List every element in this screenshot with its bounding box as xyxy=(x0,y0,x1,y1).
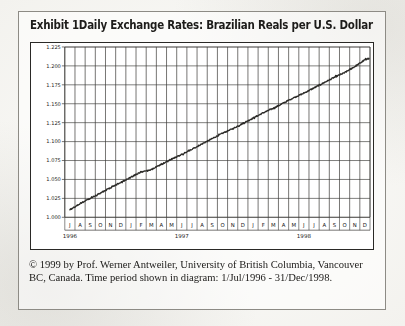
x-year-label: 1996 xyxy=(63,233,78,239)
x-axis-year-labels: 199619971998 xyxy=(63,233,312,239)
chart-gridlines xyxy=(65,47,370,230)
x-tick-label: A xyxy=(78,222,82,228)
x-tick-label: A xyxy=(282,222,286,228)
x-tick-label: N xyxy=(231,222,235,228)
y-tick-label: 1.075 xyxy=(46,157,60,163)
y-tick-label: 1.125 xyxy=(46,120,60,126)
x-tick-label: J xyxy=(180,222,183,229)
x-tick-label: A xyxy=(160,222,164,228)
x-tick-label: M xyxy=(271,222,276,228)
x-tick-label: D xyxy=(241,222,245,228)
y-tick-label: 1.000 xyxy=(46,214,60,220)
y-tick-label: 1.150 xyxy=(46,101,60,107)
y-tick-label: 1.100 xyxy=(46,138,60,144)
y-tick-label: 1.175 xyxy=(46,82,60,88)
y-tick-label: 1.025 xyxy=(46,195,60,201)
y-axis-tick-labels: 1.2251.2001.1751.1501.1251.1001.0751.050… xyxy=(46,44,64,220)
x-tick-label: J xyxy=(312,222,315,229)
x-tick-label: O xyxy=(342,222,346,228)
x-tick-label: A xyxy=(322,222,326,228)
x-tick-label: F xyxy=(262,222,265,228)
x-tick-label: F xyxy=(140,222,143,228)
x-tick-label: O xyxy=(220,222,224,228)
x-tick-label: M xyxy=(169,222,174,228)
x-tick-label: O xyxy=(98,222,102,228)
x-tick-label: N xyxy=(109,222,113,228)
x-year-label: 1997 xyxy=(175,233,190,239)
x-tick-label: J xyxy=(68,222,71,229)
x-tick-label: J xyxy=(302,222,305,229)
exhibit-title: Exhibit 1Daily Exchange Rates: Brazilian… xyxy=(30,18,380,31)
y-tick-label: 1.225 xyxy=(46,44,60,50)
y-tick-label: 1.200 xyxy=(46,63,60,69)
x-tick-label: S xyxy=(89,222,93,228)
x-tick-label: D xyxy=(119,222,123,228)
x-tick-label: J xyxy=(129,222,132,229)
x-year-label: 1998 xyxy=(297,233,312,239)
x-tick-label: S xyxy=(333,222,337,228)
x-tick-label: A xyxy=(200,222,204,228)
y-tick-label: 1.050 xyxy=(46,176,60,182)
x-tick-label: M xyxy=(149,222,154,228)
chart-plot-frame: 1.2251.2001.1751.1501.1251.1001.0751.050… xyxy=(30,42,374,250)
x-tick-label: S xyxy=(211,222,215,228)
exchange-rate-line-chart: 1.2251.2001.1751.1501.1251.1001.0751.050… xyxy=(31,43,373,249)
x-tick-label: D xyxy=(363,222,367,228)
figure-caption: © 1999 by Prof. Werner Antweiler, Univer… xyxy=(29,258,369,284)
x-tick-label: J xyxy=(190,222,193,229)
x-tick-label: M xyxy=(291,222,296,228)
x-tick-label: N xyxy=(353,222,357,228)
x-tick-label: J xyxy=(251,222,254,229)
